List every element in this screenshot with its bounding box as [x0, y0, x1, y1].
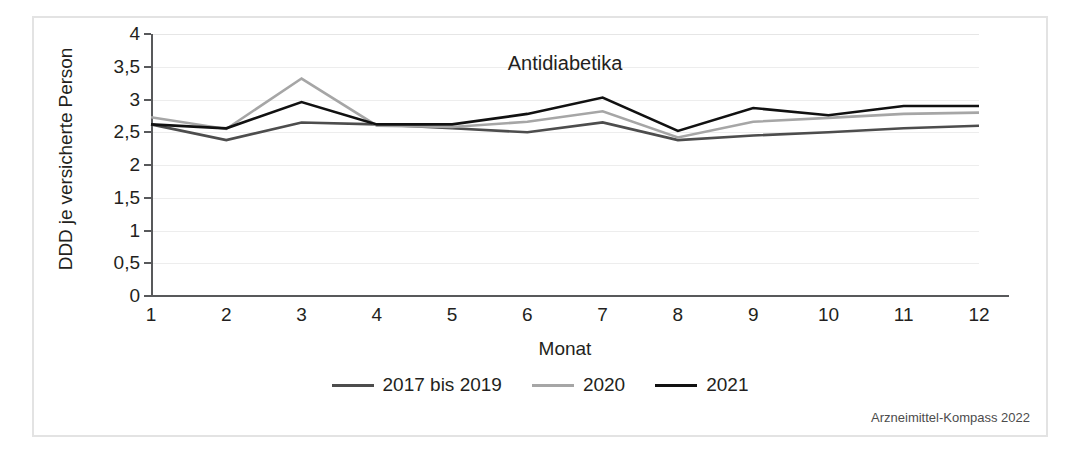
source-note: Arzneimittel-Kompass 2022 — [871, 410, 1030, 425]
y-axis-tick-label: 0,5 — [114, 252, 140, 274]
y-axis-tick-label: 2 — [129, 154, 140, 176]
y-axis-tick — [144, 230, 151, 232]
y-axis-tick — [144, 33, 151, 35]
x-axis-tick-label: 3 — [296, 304, 307, 326]
legend-label: 2020 — [583, 374, 625, 396]
y-axis-tick — [144, 66, 151, 68]
y-axis-tick-label: 1,5 — [114, 187, 140, 209]
legend-label: 2017 bis 2019 — [383, 374, 502, 396]
y-axis-tick-label: 2,5 — [114, 121, 140, 143]
y-axis-tick — [144, 262, 151, 264]
legend-label: 2021 — [706, 374, 748, 396]
legend-swatch — [332, 384, 374, 387]
x-axis-tick-label: 9 — [748, 304, 759, 326]
y-axis-tick-label: 1 — [129, 220, 140, 242]
chart-figure: DDD je versicherte Person 00,511,522,533… — [32, 16, 1048, 437]
legend-item[interactable]: 2020 — [532, 374, 625, 396]
y-axis-tick — [144, 164, 151, 166]
x-axis-title: Monat — [151, 338, 979, 360]
legend-item[interactable]: 2021 — [655, 374, 748, 396]
y-axis-tick-label: 3,5 — [114, 56, 140, 78]
legend-swatch — [532, 384, 574, 387]
x-axis-tick-label: 10 — [818, 304, 839, 326]
x-axis-tick-label: 5 — [447, 304, 458, 326]
y-axis-tick — [144, 197, 151, 199]
x-axis-tick-label: 7 — [597, 304, 608, 326]
y-axis-tick-label: 0 — [129, 285, 140, 307]
x-axis-tick-label: 2 — [221, 304, 232, 326]
y-axis-tick — [144, 99, 151, 101]
x-axis-tick-label: 8 — [673, 304, 684, 326]
x-axis-tick-labels: 123456789101112 — [151, 304, 979, 332]
y-axis-tick-label: 4 — [129, 23, 140, 45]
chart-title: Antidiabetika — [151, 52, 979, 75]
x-axis-tick-label: 11 — [894, 304, 914, 326]
x-axis-tick-label: 4 — [372, 304, 383, 326]
y-axis-tick — [144, 295, 151, 297]
chart-legend: 2017 bis 201920202021 — [34, 374, 1046, 396]
x-axis-tick-label: 6 — [522, 304, 533, 326]
x-axis-tick-label: 12 — [968, 304, 989, 326]
series-line — [151, 98, 979, 131]
y-axis-title: DDD je versicherte Person — [55, 9, 77, 309]
y-axis-tick-label: 3 — [129, 89, 140, 111]
x-axis-tick-label: 1 — [146, 304, 157, 326]
legend-swatch — [655, 384, 697, 387]
plot-area: 00,511,522,533,54 Antidiabetika — [151, 34, 979, 296]
series-line — [151, 122, 979, 140]
y-axis-tick — [144, 131, 151, 133]
legend-item[interactable]: 2017 bis 2019 — [332, 374, 502, 396]
